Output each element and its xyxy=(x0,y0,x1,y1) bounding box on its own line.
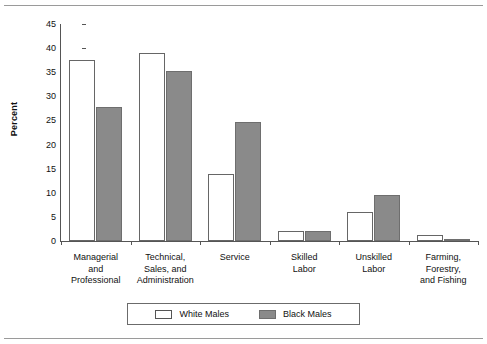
y-axis-tick-label: 10 xyxy=(46,187,56,199)
legend-entry: Black Males xyxy=(259,309,332,319)
bar-group xyxy=(270,18,340,241)
x-axis-tick-mark xyxy=(409,241,410,245)
gray-swatch-icon xyxy=(259,310,276,319)
chart-legend: White MalesBlack Males xyxy=(127,303,360,325)
legend-label: White Males xyxy=(179,309,229,319)
bar-group xyxy=(131,18,201,241)
bar-gray xyxy=(305,231,331,241)
bar-group xyxy=(339,18,409,241)
y-axis-tick-label: 40 xyxy=(46,42,56,54)
x-axis-category-labels: ManagerialandProfessionalTechnical,Sales… xyxy=(61,252,478,296)
x-axis-tick-mark xyxy=(270,241,271,245)
x-axis-category-label-line: Forestry, xyxy=(402,264,486,276)
bars-layer xyxy=(61,18,478,241)
white-swatch-icon xyxy=(155,310,172,319)
bar-group xyxy=(409,18,479,241)
y-axis-tick-label: 5 xyxy=(51,211,56,223)
plot-area: Percent 454035302520151050 xyxy=(0,18,487,250)
x-axis-tick-mark xyxy=(131,241,132,245)
x-axis-tick-mark xyxy=(339,241,340,245)
legend-label: Black Males xyxy=(283,309,332,319)
bar-white xyxy=(347,212,373,241)
bar-white xyxy=(69,60,95,241)
bar-gray xyxy=(96,107,122,241)
y-axis-title: Percent xyxy=(9,89,19,149)
x-axis-tick-mark xyxy=(200,241,201,245)
bar-white xyxy=(208,174,234,241)
x-axis-category-label-line: Sales, and xyxy=(124,264,208,276)
bar-group xyxy=(200,18,270,241)
y-axis-tick-label: 15 xyxy=(46,163,56,175)
bar-gray xyxy=(166,71,192,241)
y-axis-tick-label: 30 xyxy=(46,90,56,102)
y-axis-tick-labels: 454035302520151050 xyxy=(26,18,56,242)
x-axis-category-label-line: Farming, xyxy=(402,252,486,264)
bar-white xyxy=(278,231,304,241)
figure-top-rule xyxy=(4,5,483,6)
y-axis-tick-label: 25 xyxy=(46,114,56,126)
x-axis-tick-mark xyxy=(478,241,479,245)
chart-figure: Percent 454035302520151050 Managerialand… xyxy=(0,0,487,344)
legend-entry: White Males xyxy=(155,309,229,319)
bar-white xyxy=(417,235,443,241)
x-axis-category-label-line: and Fishing xyxy=(402,275,486,287)
x-axis-category-label: Farming,Forestry,and Fishing xyxy=(402,252,486,287)
y-axis-tick-label: 0 xyxy=(51,235,56,247)
bar-white xyxy=(139,53,165,241)
bar-gray xyxy=(235,122,261,241)
x-axis-category-label-line: Administration xyxy=(124,275,208,287)
figure-bottom-rule xyxy=(4,338,483,339)
bar-gray xyxy=(444,239,470,241)
y-axis-tick-label: 20 xyxy=(46,139,56,151)
bar-gray xyxy=(374,195,400,241)
bar-group xyxy=(61,18,131,241)
x-axis-tick-mark xyxy=(61,241,62,245)
y-axis-tick-label: 35 xyxy=(46,66,56,78)
y-axis-tick-label: 45 xyxy=(46,18,56,30)
